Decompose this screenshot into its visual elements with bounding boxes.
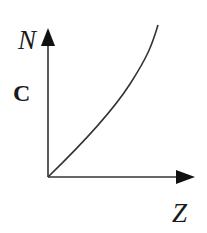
- curve: [48, 25, 158, 177]
- y-axis-arrow-icon: [41, 28, 55, 46]
- x-axis-arrow-icon: [176, 170, 195, 184]
- x-axis-label: Z: [172, 200, 187, 227]
- y-axis-label: N: [18, 27, 36, 54]
- panel-label: C: [13, 81, 30, 105]
